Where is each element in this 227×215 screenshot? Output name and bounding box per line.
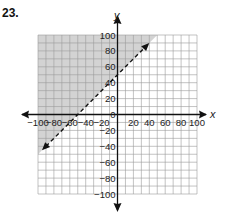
svg-text:80: 80 — [176, 117, 187, 128]
svg-text:−80: −80 — [46, 117, 62, 128]
svg-text:60: 60 — [160, 117, 171, 128]
svg-text:0: 0 — [110, 109, 115, 120]
svg-text:100: 100 — [189, 117, 205, 128]
svg-text:−20: −20 — [99, 125, 115, 136]
coordinate-plane: −100−80−60−40−2020406080100100806040200−… — [0, 0, 227, 215]
svg-text:40: 40 — [144, 117, 155, 128]
svg-text:80: 80 — [105, 45, 116, 56]
svg-text:−60: −60 — [62, 117, 78, 128]
svg-text:60: 60 — [105, 61, 116, 72]
svg-text:−40: −40 — [99, 141, 115, 152]
svg-text:−40: −40 — [78, 117, 94, 128]
svg-text:100: 100 — [100, 30, 116, 41]
svg-text:20: 20 — [128, 117, 139, 128]
x-axis-label: x — [209, 108, 216, 120]
y-axis-label: y — [113, 9, 121, 21]
svg-text:−60: −60 — [99, 157, 115, 168]
svg-text:−100: −100 — [94, 189, 115, 200]
svg-text:20: 20 — [105, 93, 116, 104]
svg-text:−80: −80 — [99, 173, 115, 184]
